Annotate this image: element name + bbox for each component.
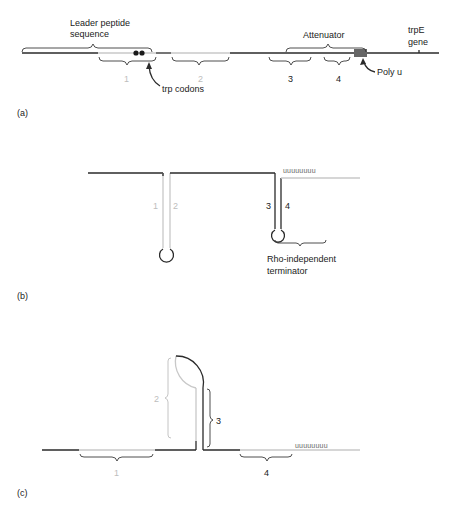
region-3-label: 3 — [216, 416, 221, 426]
attenuator-label: Attenuator — [303, 30, 345, 40]
trp-codons-label: trp codons — [162, 84, 205, 94]
region-4-label: 4 — [336, 74, 341, 84]
region-4-brace — [324, 57, 350, 65]
terminator-label: Rho-independent — [267, 254, 337, 264]
region-3-brace — [269, 57, 311, 65]
region-4-label: 4 — [264, 468, 269, 478]
trpE-label: trpE — [408, 25, 425, 35]
region-1-brace — [99, 57, 156, 65]
panel-b-label: (b) — [17, 291, 28, 301]
panel-c: uuuuuuuu 2 3 1 4 (c) — [17, 356, 360, 498]
loop-3-4 — [272, 230, 285, 242]
trp-codon-dot — [139, 50, 144, 55]
trp-codon-dot — [133, 50, 138, 55]
poly-u-label: Poly u — [377, 67, 402, 77]
trp-attenuation-diagram: Leader peptide sequence Attenuator trpE … — [0, 0, 461, 511]
terminator-label-2: terminator — [267, 266, 308, 276]
region-2-label: 2 — [198, 74, 203, 84]
loop-1-2 — [160, 249, 174, 262]
panel-a: Leader peptide sequence Attenuator trpE … — [17, 18, 439, 118]
region-1-brace — [80, 454, 153, 461]
stem-1-label: 1 — [153, 201, 158, 211]
loop-upper-right — [176, 356, 203, 388]
region-2-brace — [165, 358, 171, 438]
poly-u-box — [354, 49, 367, 57]
region-2-brace — [172, 57, 229, 65]
arrowhead-icon — [360, 58, 366, 65]
panel-b: uuuuuuuu 1 2 3 4 Rho-independent termina… — [17, 167, 360, 301]
region-3-label: 3 — [288, 74, 293, 84]
region-4-brace — [240, 454, 292, 461]
stem-3-label: 3 — [266, 201, 271, 211]
region-1-label: 1 — [114, 468, 119, 478]
leader-label: Leader peptide — [70, 18, 130, 28]
panel-a-label: (a) — [17, 108, 28, 118]
uuu-text: uuuuuuuu — [295, 442, 328, 449]
region-2-label: 2 — [154, 394, 159, 404]
region-1-label: 1 — [124, 74, 129, 84]
panel-c-label: (c) — [17, 488, 28, 498]
leader-peptide-brace — [22, 44, 152, 52]
arrowhead-icon — [146, 62, 152, 69]
stem-2-label: 2 — [173, 201, 178, 211]
region-3-brace — [207, 389, 213, 447]
stem-4-label: 4 — [285, 201, 290, 211]
leader-label-2: sequence — [70, 29, 109, 39]
uuu-text: uuuuuuuu — [283, 167, 316, 174]
trpE-label-2: gene — [408, 37, 428, 47]
